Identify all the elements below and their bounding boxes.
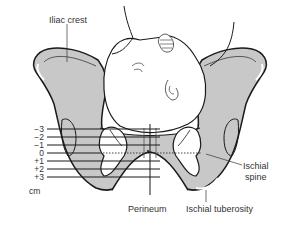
pelvis-diagram: Iliac crest −3 −2 −1 0 +1 +2 +3 cm Ischi…	[0, 0, 300, 230]
pelvis-illustration	[0, 0, 300, 230]
station-plus-3: +3	[28, 173, 44, 181]
fetal-head	[104, 36, 206, 133]
label-ischial-spine-1: Ischial	[243, 161, 269, 171]
label-perineum: Perineum	[128, 204, 167, 214]
label-iliac-crest: Iliac crest	[49, 15, 87, 25]
label-ischial-tuberosity: Ischial tuberosity	[186, 204, 253, 214]
label-unit-cm: cm	[29, 186, 40, 196]
label-ischial-spine-2: spine	[245, 172, 267, 182]
